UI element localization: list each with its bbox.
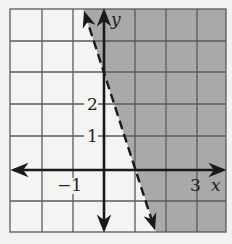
- x-axis-label: x: [211, 175, 221, 195]
- y-tick-2: 2: [87, 94, 98, 114]
- y-axis-label: y: [110, 9, 121, 29]
- x-tick-3: 3: [190, 175, 201, 195]
- y-tick-1: 1: [87, 126, 98, 146]
- inequality-graph: y x 2 1 −1 3: [0, 0, 232, 244]
- x-tick-neg1: −1: [57, 175, 82, 195]
